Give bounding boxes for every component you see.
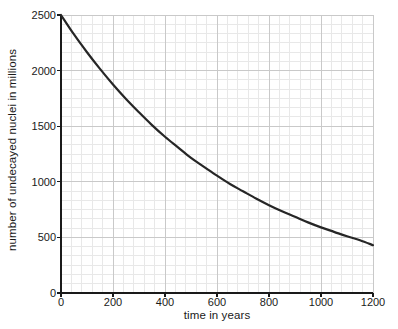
x-tick-label: 1000 (309, 296, 333, 308)
x-axis-tick-labels: 0 200 400 600 800 1000 1200 (0, 0, 398, 329)
x-axis-label: time in years (61, 309, 373, 321)
x-tick-label: 200 (104, 296, 122, 308)
x-tick-label: 1200 (361, 296, 385, 308)
x-tick-label: 0 (58, 296, 64, 308)
x-tick-label: 600 (208, 296, 226, 308)
x-tick-label: 400 (156, 296, 174, 308)
x-tick-label: 800 (260, 296, 278, 308)
chart-container: number of undecayed nuclei in millions 0… (0, 0, 398, 329)
